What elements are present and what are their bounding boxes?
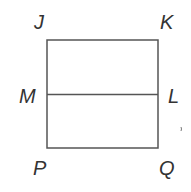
vertex-label-p: P bbox=[33, 158, 46, 178]
vertex-label-k: K bbox=[160, 12, 173, 32]
stray-mark bbox=[181, 127, 182, 131]
vertex-label-l: L bbox=[168, 86, 179, 106]
vertex-label-q: Q bbox=[159, 158, 175, 178]
vertex-label-m: M bbox=[19, 86, 36, 106]
vertex-label-j: J bbox=[34, 12, 44, 32]
